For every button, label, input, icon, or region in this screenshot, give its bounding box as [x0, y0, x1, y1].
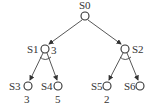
node-label-s0: S0	[79, 0, 91, 11]
edge-s0-s2	[88, 20, 121, 44]
tree-graphics	[0, 0, 151, 111]
node-s2	[121, 45, 129, 53]
node-label-s1: S1	[27, 44, 39, 55]
node-label-s3: S3	[9, 81, 21, 92]
edge-s2-s6	[127, 53, 138, 80]
node-label-s4: S4	[41, 81, 53, 92]
node-label-s6: S6	[124, 81, 136, 92]
node-label-s2: S2	[132, 44, 144, 55]
node-s1	[41, 45, 49, 53]
node-s6	[136, 82, 144, 90]
node-s3	[24, 82, 32, 90]
node-value-s3: 3	[24, 94, 30, 105]
edge-s1-s3	[30, 53, 43, 80]
edge-s0-s1	[49, 20, 82, 44]
node-s4	[54, 82, 62, 90]
edge-s1-s4	[47, 53, 57, 80]
node-label-s5: S5	[91, 81, 103, 92]
node-value-s1: 3	[51, 45, 57, 56]
edge-s2-s5	[109, 53, 123, 80]
node-value-s4: 5	[55, 94, 61, 105]
node-s5	[103, 82, 111, 90]
and-or-tree-diagram: S0 S1 3 S2 S3 3 S4 5 S5 2 S6	[0, 0, 151, 111]
node-value-s5: 2	[104, 94, 110, 105]
node-s0	[81, 12, 89, 20]
